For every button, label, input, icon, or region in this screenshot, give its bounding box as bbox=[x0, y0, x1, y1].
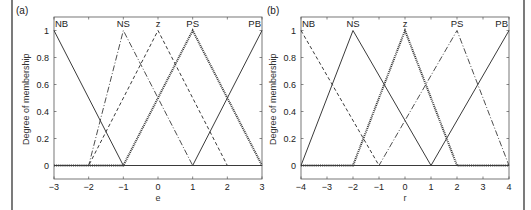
y-tick-label: 0.2 bbox=[283, 134, 296, 144]
axes-box bbox=[301, 17, 509, 179]
chart-panel-b: −4−3−2−10123400.20.40.60.81rDegree of me… bbox=[267, 5, 512, 203]
y-tick-label: 0.4 bbox=[283, 107, 296, 117]
panel-label: (a) bbox=[16, 5, 28, 16]
mf-label-ps: PS bbox=[451, 18, 464, 29]
mf-label-pb: PB bbox=[248, 18, 261, 29]
mf-label-ns: NS bbox=[346, 18, 359, 29]
x-tick-label: 0 bbox=[155, 182, 160, 192]
x-tick-label: 2 bbox=[225, 182, 230, 192]
y-tick-label: 0 bbox=[44, 161, 49, 171]
x-tick-label: −1 bbox=[374, 182, 384, 192]
x-tick-label: 0 bbox=[402, 182, 407, 192]
series-line-ns bbox=[301, 31, 509, 166]
x-tick-label: 4 bbox=[506, 182, 511, 192]
x-axis-label: e bbox=[155, 193, 160, 203]
series-line-ps bbox=[54, 31, 262, 166]
x-tick-label: −2 bbox=[84, 182, 94, 192]
mf-label-nb: NB bbox=[302, 18, 315, 29]
series-line-pb bbox=[301, 31, 509, 166]
y-axis-label: Degree of membership bbox=[21, 53, 31, 145]
y-tick-label: 1 bbox=[291, 26, 296, 36]
x-tick-label: −1 bbox=[118, 182, 128, 192]
mf-label-ps: PS bbox=[186, 18, 199, 29]
y-tick-label: 0 bbox=[291, 161, 296, 171]
series-line-ps bbox=[301, 31, 509, 166]
y-tick-label: 0.4 bbox=[36, 107, 49, 117]
chart-panel-a: −3−2−1012300.20.40.60.81eDegree of membe… bbox=[16, 5, 265, 203]
x-tick-label: 2 bbox=[454, 182, 459, 192]
figure: −3−2−1012300.20.40.60.81eDegree of membe… bbox=[0, 0, 531, 210]
mf-label-z: z bbox=[403, 18, 408, 29]
panel-label: (b) bbox=[267, 5, 279, 16]
x-tick-label: −4 bbox=[296, 182, 306, 192]
x-tick-label: −3 bbox=[49, 182, 59, 192]
y-tick-label: 0.8 bbox=[283, 53, 296, 63]
y-tick-label: 0.8 bbox=[36, 53, 49, 63]
y-tick-label: 1 bbox=[44, 26, 49, 36]
mf-label-ns: NS bbox=[117, 18, 130, 29]
y-axis-label: Degree of membership bbox=[268, 53, 278, 145]
y-tick-label: 0.2 bbox=[36, 134, 49, 144]
x-tick-label: −3 bbox=[322, 182, 332, 192]
mf-label-pb: PB bbox=[495, 18, 508, 29]
x-tick-label: 3 bbox=[480, 182, 485, 192]
x-tick-label: 1 bbox=[190, 182, 195, 192]
y-tick-label: 0.6 bbox=[283, 80, 296, 90]
x-tick-label: −2 bbox=[348, 182, 358, 192]
series-line-nb bbox=[301, 31, 509, 166]
y-tick-label: 0.6 bbox=[36, 80, 49, 90]
x-tick-label: 3 bbox=[259, 182, 264, 192]
x-tick-label: 1 bbox=[428, 182, 433, 192]
mf-label-z: z bbox=[156, 18, 161, 29]
mf-label-nb: NB bbox=[55, 18, 68, 29]
series-line-z bbox=[301, 31, 509, 166]
x-axis-label: r bbox=[404, 193, 407, 203]
